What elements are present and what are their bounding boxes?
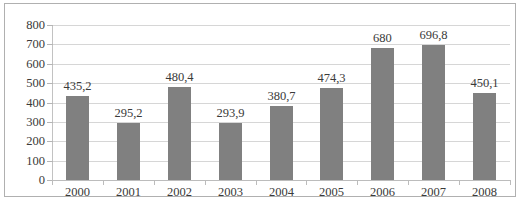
y-tick-400 [47, 103, 53, 104]
bar-value-label: 450,1 [459, 77, 510, 90]
x-axis-label-2002: 2002 [154, 186, 205, 199]
x-tick [205, 180, 206, 185]
bar-2005[interactable] [320, 88, 343, 180]
x-tick [154, 180, 155, 185]
bar-value-label: 680 [357, 32, 408, 45]
y-axis-tick-label: 0 [5, 174, 45, 187]
gridline-800 [52, 25, 510, 26]
gridline-0 [52, 180, 510, 181]
x-axis-label-2005: 2005 [306, 186, 357, 199]
bar-value-label: 380,7 [256, 90, 307, 103]
bar-2003[interactable] [219, 123, 242, 180]
y-tick-300 [47, 122, 53, 123]
y-tick-800 [47, 25, 53, 26]
x-tick [408, 180, 409, 185]
x-axis-label-2003: 2003 [205, 186, 256, 199]
y-axis-tick-label: 600 [5, 58, 45, 71]
x-tick [103, 180, 104, 185]
bar-value-label: 293,9 [205, 107, 256, 120]
x-tick [357, 180, 358, 185]
y-axis-tick-label: 700 [5, 38, 45, 51]
y-axis-tick-label: 300 [5, 116, 45, 129]
y-tick-200 [47, 141, 53, 142]
bar-value-label: 480,4 [154, 71, 205, 84]
bar-2006[interactable] [371, 48, 394, 180]
y-tick-100 [47, 161, 53, 162]
y-axis-tick-label: 200 [5, 135, 45, 148]
y-axis-tick-label: 400 [5, 97, 45, 110]
bar-value-label: 435,2 [52, 80, 103, 93]
bar-2007[interactable] [422, 45, 445, 180]
x-tick [459, 180, 460, 185]
chart-screenshot: 8007006005004003002001000 435,22000295,2… [0, 0, 529, 209]
bar-2002[interactable] [168, 87, 191, 180]
x-tick [256, 180, 257, 185]
bar-2004[interactable] [270, 106, 293, 180]
x-axis-label-2004: 2004 [256, 186, 307, 199]
caption-remnant [60, 200, 180, 206]
x-axis-label-2001: 2001 [103, 186, 154, 199]
y-axis-tick-label: 800 [5, 19, 45, 32]
x-tick [510, 180, 511, 185]
bar-value-label: 696,8 [408, 29, 459, 42]
bar-2000[interactable] [66, 96, 89, 180]
y-axis-labels: 8007006005004003002001000 [5, 4, 45, 198]
x-axis-label-2008: 2008 [459, 186, 510, 199]
bar-2001[interactable] [117, 123, 140, 180]
y-tick-600 [47, 64, 53, 65]
bar-value-label: 474,3 [306, 72, 357, 85]
bar-value-label: 295,2 [103, 107, 154, 120]
x-tick [52, 180, 53, 185]
y-axis-tick-label: 500 [5, 77, 45, 90]
x-axis-label-2006: 2006 [357, 186, 408, 199]
bar-2008[interactable] [473, 93, 496, 180]
x-axis-label-2007: 2007 [408, 186, 459, 199]
x-tick [306, 180, 307, 185]
y-axis-tick-label: 100 [5, 155, 45, 168]
x-axis-label-2000: 2000 [52, 186, 103, 199]
chart-frame: 8007006005004003002001000 435,22000295,2… [4, 3, 516, 197]
y-tick-700 [47, 44, 53, 45]
